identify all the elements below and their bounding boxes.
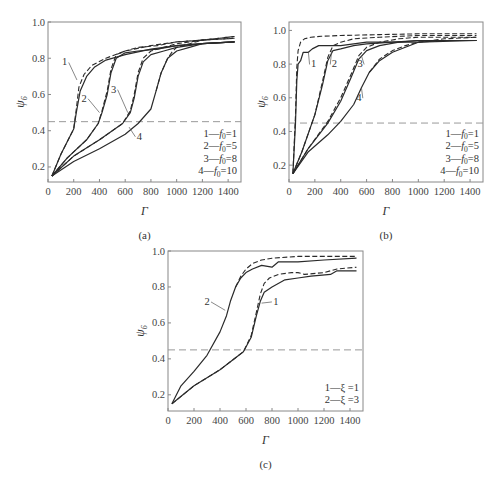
- y-tick-label: 0.6: [152, 317, 165, 328]
- curve-label: 2: [204, 296, 209, 307]
- x-tick-label: 400: [212, 415, 228, 426]
- y-tick-label: 0.6: [273, 92, 286, 103]
- y-tick-label: 0.2: [152, 389, 165, 400]
- x-tick-label: 1000: [166, 186, 187, 197]
- x-tick-label: 200: [186, 415, 202, 426]
- x-tick-label: 1400: [218, 186, 239, 197]
- y-tick-label: 1.0: [32, 17, 45, 28]
- legend-entry: 1—ξ =1: [325, 382, 359, 394]
- y-tick-label: 0.2: [273, 160, 286, 171]
- curve-label: 2: [332, 58, 337, 69]
- x-tick-label: 800: [385, 186, 401, 197]
- x-tick-label: 0: [286, 186, 291, 197]
- x-tick-label: 1200: [434, 186, 455, 197]
- y-tick-label: 0.8: [152, 281, 165, 292]
- legend-entry: 4—f0=10: [440, 165, 479, 179]
- legend-entry: 3—f0=8: [203, 153, 237, 167]
- x-tick-label: 800: [264, 415, 280, 426]
- panel-label: (b): [380, 229, 393, 242]
- x-tick-label: 1200: [192, 186, 213, 197]
- x-axis-label: Γ: [140, 204, 149, 218]
- legend-entry: 2—f0=5: [203, 140, 237, 154]
- y-tick-label: 0.8: [32, 53, 45, 64]
- curve-label: 1: [311, 58, 316, 69]
- x-tick-label: 200: [66, 186, 82, 197]
- y-axis-label: ψ6: [133, 325, 149, 336]
- curve-label: 4: [137, 131, 143, 142]
- legend-entry: 4—f0=10: [198, 165, 237, 179]
- chart-panel-a: 02004006008001000120014000.20.40.60.81.0…: [13, 17, 241, 243]
- figure: 02004006008001000120014000.20.40.60.81.0…: [0, 0, 502, 481]
- panel-label: (c): [259, 458, 272, 471]
- legend-entry: 2—ξ =3: [325, 394, 359, 406]
- x-tick-label: 1200: [314, 415, 335, 426]
- y-tick-label: 0.2: [32, 161, 45, 172]
- x-tick-label: 1400: [340, 415, 361, 426]
- y-tick-label: 0.4: [273, 126, 287, 137]
- curve-label: 1: [62, 56, 67, 67]
- x-tick-label: 1000: [288, 415, 309, 426]
- legend-entry: 3—f0=8: [445, 153, 479, 167]
- y-tick-label: 0.4: [32, 125, 46, 136]
- y-tick-label: 1.0: [273, 25, 286, 36]
- x-tick-label: 1000: [408, 186, 429, 197]
- curve-label: 1: [273, 296, 278, 307]
- x-tick-label: 600: [238, 415, 254, 426]
- y-tick-label: 0.8: [273, 59, 286, 70]
- x-tick-label: 600: [117, 186, 133, 197]
- curve-label: 3: [358, 58, 363, 69]
- curve-label: 4: [356, 92, 362, 103]
- x-tick-label: 800: [143, 186, 159, 197]
- legend: 1—f0=12—f0=53—f0=84—f0=10: [440, 128, 479, 179]
- legend-entry: 1—f0=1: [445, 128, 479, 142]
- x-tick-label: 400: [333, 186, 349, 197]
- curve-label: 2: [81, 93, 86, 104]
- x-tick-label: 0: [45, 186, 50, 197]
- panel-label: (a): [138, 229, 151, 242]
- x-tick-label: 200: [307, 186, 323, 197]
- y-tick-label: 1.0: [152, 246, 165, 257]
- legend-entry: 1—f0=1: [203, 128, 237, 142]
- curve-label: 3: [111, 84, 116, 95]
- series-line: [236, 256, 357, 287]
- y-tick-label: 0.4: [152, 353, 166, 364]
- chart-panel-b: 02004006008001000120014000.20.40.60.81.0…: [254, 22, 483, 242]
- legend: 1—ξ =12—ξ =3: [325, 382, 359, 407]
- x-tick-label: 0: [165, 415, 170, 426]
- x-tick-label: 600: [359, 186, 375, 197]
- x-tick-label: 400: [92, 186, 108, 197]
- y-tick-label: 0.6: [32, 89, 45, 100]
- chart-panel-c: 02004006008001000120014000.20.40.60.81.0…: [133, 246, 363, 472]
- y-axis-label: ψ6: [254, 96, 270, 107]
- y-axis-label: ψ6: [13, 96, 29, 107]
- legend-entry: 2—f0=5: [445, 140, 479, 154]
- x-axis-label: Γ: [382, 204, 391, 218]
- x-axis-label: Γ: [261, 433, 270, 447]
- x-tick-label: 1400: [460, 186, 481, 197]
- legend: 1—f0=12—f0=53—f0=84—f0=10: [198, 128, 237, 179]
